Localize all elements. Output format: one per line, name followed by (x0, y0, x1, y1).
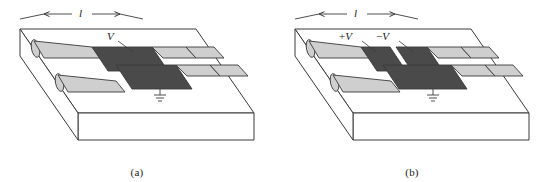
panel-b-caption: (b) (275, 166, 549, 178)
figure-panel-b: l +V −V (b) (275, 0, 549, 182)
panel-a-drawing (0, 0, 274, 182)
voltage-positive-label-b: +V (339, 30, 352, 45)
substrate-front-face (78, 113, 254, 140)
panel-b-drawing (275, 0, 549, 182)
panel-a-caption: (a) (0, 166, 274, 178)
voltage-label-a: V (107, 30, 114, 45)
voltage-negative-label-b: −V (376, 30, 389, 45)
substrate-front-face (353, 113, 529, 140)
figure-panel-a: l V (a) (0, 0, 274, 182)
dimension-label-a: l (79, 7, 82, 19)
dimension-label-b: l (354, 7, 357, 19)
